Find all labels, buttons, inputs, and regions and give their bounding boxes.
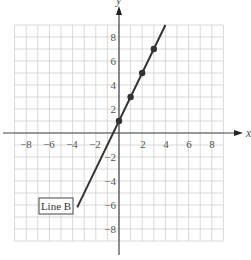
x-tick-label: 2 — [140, 138, 146, 150]
y-tick-label: −2 — [104, 151, 116, 163]
line-b-label-box: Line B — [39, 198, 73, 214]
y-axis-arrow-icon — [116, 6, 122, 15]
y-tick-label: −8 — [104, 223, 116, 235]
x-tick-label: 4 — [163, 138, 169, 150]
x-tick-label: −2 — [89, 138, 101, 150]
y-tick-label: 2 — [111, 103, 117, 115]
x-tick-label: −6 — [43, 138, 55, 150]
y-axis-label: y — [115, 0, 122, 7]
x-tick-label: 8 — [209, 138, 215, 150]
x-tick-label: −4 — [66, 138, 78, 150]
y-tick-label: 8 — [111, 31, 117, 43]
y-tick-label: −6 — [104, 199, 116, 211]
data-point — [127, 94, 133, 100]
x-tick-label: −8 — [20, 138, 32, 150]
x-tick-label: 6 — [186, 138, 192, 150]
line-b-label: Line B — [41, 200, 71, 212]
y-tick-label: −4 — [104, 175, 116, 187]
coordinate-plane: x y −8 −6 −4 −2 2 4 6 8 8 6 4 2 −2 −4 −6… — [0, 0, 251, 260]
data-point — [116, 118, 122, 124]
line-b — [77, 25, 165, 207]
data-point — [151, 46, 157, 52]
line-b-path — [77, 25, 165, 207]
data-point — [139, 70, 145, 76]
x-axis-label: x — [245, 126, 251, 140]
x-axis-arrow-icon — [234, 130, 243, 136]
y-tick-label: 6 — [111, 55, 117, 67]
y-tick-label: 4 — [111, 79, 117, 91]
